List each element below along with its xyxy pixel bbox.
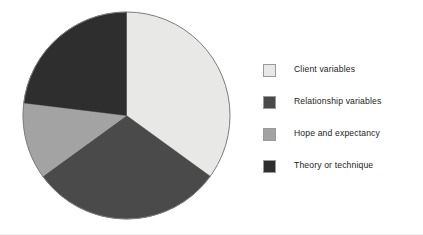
legend-item[interactable]: Hope and expectancy (263, 118, 419, 150)
legend-item-label: Client variables (294, 65, 355, 74)
legend-item[interactable]: Client variables (263, 54, 419, 86)
legend-swatch-client-variables (263, 64, 276, 77)
legend-swatch-theory-or-technique (263, 160, 276, 173)
legend-item-label: Theory or technique (294, 161, 373, 170)
pie-chart-svg (22, 11, 231, 220)
legend-swatch-relationship-variables (263, 96, 276, 109)
pie-slice[interactable] (24, 12, 127, 116)
legend-swatch-hope-and-expectancy (263, 128, 276, 141)
legend-item-label: Hope and expectancy (294, 129, 380, 138)
chart-legend: Client variablesRelationship variablesHo… (263, 54, 419, 182)
pie-slice-group (23, 12, 230, 219)
legend-item[interactable]: Theory or technique (263, 150, 419, 182)
legend-item[interactable]: Relationship variables (263, 86, 419, 118)
legend-item-label: Relationship variables (294, 97, 381, 106)
page-bottom-edge (0, 234, 423, 235)
pie-chart-figure: Client variablesRelationship variablesHo… (0, 0, 423, 235)
pie-chart-plot-area (22, 11, 231, 220)
